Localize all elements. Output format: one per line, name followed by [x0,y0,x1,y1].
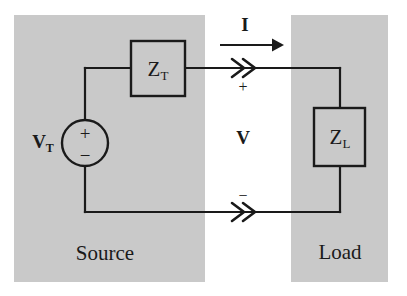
thevenin-impedance-symbol: Z [148,57,161,81]
thevenin-impedance-label: ZT [148,59,169,80]
source-region-label: Source [76,243,134,264]
load-region-label: Load [318,242,361,263]
thevenin-voltage-symbol: V [32,131,46,152]
load-impedance-label: ZL [330,127,351,148]
load-impedance-subscript: L [342,136,350,151]
thevenin-voltage-subscript: T [46,141,54,155]
circuit-diagram-figure: Source Load ZT ZL VT + − I V + − [0,0,407,296]
terminal-plus-sign: + [238,79,247,95]
load-impedance-symbol: Z [330,125,343,149]
thevenin-impedance-subscript: T [160,68,168,83]
voltage-source-minus-sign: − [80,146,91,165]
terminal-voltage-label: V [236,128,250,147]
terminal-minus-sign: − [238,188,247,204]
thevenin-voltage-label: VT [32,132,54,151]
current-label: I [241,15,248,34]
voltage-source-plus-sign: + [80,124,91,143]
current-arrow-icon [220,39,284,52]
